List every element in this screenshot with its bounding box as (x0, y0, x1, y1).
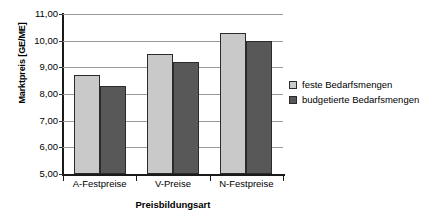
x-axis-tick-label: A-Festpreise (73, 178, 127, 189)
bar-v-preise-series1 (173, 62, 199, 174)
legend: feste Bedarfsmengenbudgetierte Bedarfsme… (289, 78, 419, 108)
bar-chart: Marktpreis [GE/ME] 5,006,007,008,009,001… (0, 0, 447, 221)
legend-item: budgetierte Bedarfsmengen (289, 93, 419, 107)
y-axis-tick (59, 41, 63, 42)
y-axis-tick (59, 147, 63, 148)
legend-swatch-icon (289, 96, 297, 104)
y-axis-tick (59, 121, 63, 122)
legend-label: budgetierte Bedarfsmengen (302, 95, 419, 105)
plot-area (63, 14, 283, 174)
y-axis-tick-label: 9,00 (22, 62, 58, 72)
y-axis-tick-label: 5,00 (22, 169, 58, 179)
bar-n-festpreise-series0 (220, 33, 246, 174)
y-axis-tick-label: 10,00 (22, 36, 58, 46)
y-axis-tick (59, 94, 63, 95)
x-axis-line (62, 174, 285, 176)
bar-n-festpreise-series1 (246, 41, 272, 174)
x-axis-tick (136, 176, 137, 181)
y-axis-tick (59, 67, 63, 68)
x-axis-tick-label: V-Preise (155, 178, 191, 189)
bar-a-festpreise-series1 (100, 86, 126, 174)
x-axis-tick-label: N-Festpreise (219, 178, 273, 189)
x-axis-title: Preisbildungsart (63, 199, 283, 210)
x-axis-tick (63, 176, 64, 181)
legend-item: feste Bedarfsmengen (289, 78, 419, 92)
bar-a-festpreise-series0 (74, 75, 100, 174)
bar-v-preise-series0 (147, 54, 173, 174)
gridline (63, 14, 283, 15)
y-axis-tick-label: 6,00 (22, 142, 58, 152)
y-axis-tick-label: 7,00 (22, 116, 58, 126)
y-axis-tick (59, 14, 63, 15)
bars-layer (63, 14, 283, 174)
x-axis-tick (210, 176, 211, 181)
legend-label: feste Bedarfsmengen (302, 80, 392, 90)
y-axis-tick-label: 11,00 (22, 9, 58, 19)
y-axis-tick-label: 8,00 (22, 89, 58, 99)
legend-swatch-icon (289, 81, 297, 89)
x-axis-tick (283, 176, 284, 181)
y-axis-tick-labels: 5,006,007,008,009,0010,0011,00 (22, 14, 58, 174)
y-axis-tick (59, 174, 63, 175)
